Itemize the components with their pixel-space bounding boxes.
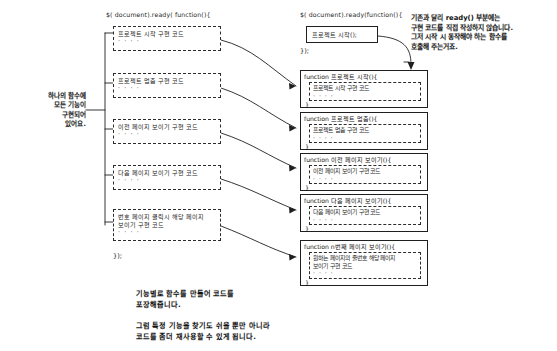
function-box-5: function n번째 페이지 보이기(){ 원하는 페이지의 줄번호 해당 …	[300, 240, 428, 286]
function-box-3-body: 이전 페이지 보이기 구현 코드 · · · ·	[309, 165, 421, 184]
ready-body-call-box: 프로젝트 시작();	[306, 26, 378, 43]
flow-arrow-2	[221, 88, 296, 128]
diagram-canvas: $( document).ready( function(){ 프로젝트 시작 …	[0, 0, 557, 351]
right-ready-header: $( document).ready(function(){	[300, 11, 402, 18]
left-ready-header: $( document).ready( function(){	[106, 11, 211, 18]
function-box-4-body: 다음 페이지 보이기 구현 코드 · · · ·	[309, 206, 421, 225]
function-box-3: function 이전 페이지 보이기(){ 이전 페이지 보이기 구현 코드 …	[300, 153, 428, 191]
call-to-definition-arrowhead	[408, 62, 415, 70]
left-code-block-2: 프로젝트 멈춤 구현 코드 · · · ·	[113, 73, 221, 98]
annotation-top-right-note: 기존과 달리 ready() 부분에는 구현 코드를 직접 작성하지 않습니다.…	[411, 14, 513, 52]
function-box-3-close: }	[304, 184, 424, 192]
flow-arrow-3	[221, 133, 296, 168]
function-box-4: function 다음 페이지 보이기(){ 다음 페이지 보이기 구현 코드 …	[300, 194, 428, 232]
left-code-block-5: 번호 페이지 클릭시 해당 페이지 보이기 구현 코드 · · · ·	[113, 209, 221, 241]
function-box-1-close: }	[304, 101, 424, 109]
function-box-2-body: 프로젝트 멈춤 구현 코드 · · · ·	[309, 124, 421, 143]
left-ready-footer: });	[113, 252, 122, 260]
flow-arrow-1	[221, 40, 296, 86]
left-code-block-3: 이전 페이지 보이기 구현 코드 · · · ·	[113, 119, 221, 144]
function-box-1: function 프로젝트 시작(){ 프로젝트 시작 구현 코드 · · · …	[300, 70, 428, 108]
left-code-block-1: 프로젝트 시작 구현 코드 · · · ·	[113, 26, 221, 51]
right-ready-footer: });	[300, 47, 309, 55]
left-code-block-3-dots: · · · ·	[118, 131, 216, 138]
function-box-4-body-dots: · · · ·	[313, 217, 417, 224]
left-code-block-5-line1: 번호 페이지 클릭시 해당 페이지	[118, 213, 216, 221]
function-box-3-signature: function 이전 페이지 보이기(){	[304, 156, 424, 164]
function-box-4-close: }	[304, 225, 424, 233]
function-box-5-body-dots: · · · ·	[313, 270, 417, 277]
ready-body-call-text: 프로젝트 시작();	[312, 30, 357, 39]
flow-arrow-5	[221, 226, 296, 257]
function-box-3-body-dots: · · · ·	[313, 176, 417, 183]
function-box-2: function 프로젝트 멈춤(){ 프로젝트 멈춤 구현 코드 · · · …	[300, 112, 428, 150]
left-code-block-2-dots: · · · ·	[118, 85, 216, 92]
left-code-block-1-dots: · · · ·	[118, 38, 216, 45]
flow-arrowheads	[289, 83, 296, 261]
left-code-block-5-dots: · · · ·	[118, 229, 216, 236]
annotation-left-note: 하나의 함수에 모든 기능이 구현되어 있어요.	[16, 92, 86, 130]
function-box-2-signature: function 프로젝트 멈춤(){	[304, 115, 424, 123]
function-box-1-signature: function 프로젝트 시작(){	[304, 73, 424, 81]
call-to-definition-arrow	[378, 36, 411, 64]
annotation-bottom-note-1: 기능별로 함수를 만들어 코드를 포장해줍니다.	[136, 288, 234, 310]
function-box-5-body-line1: 원하는 페이지의 줄번호 해당 페이지	[313, 255, 417, 263]
left-code-block-4: 다음 페이지 보이기 구현 코드 · · · ·	[113, 165, 221, 190]
flow-arrow-4	[221, 179, 296, 210]
annotation-bottom-note-2: 그럼 특정 기능을 찾기도 쉬울 뿐만 아니라 코드를 좀더 재사용할 수 있게…	[136, 320, 270, 342]
function-box-2-body-dots: · · · ·	[313, 135, 417, 142]
function-box-5-close: }	[304, 279, 424, 287]
function-box-5-signature: function n번째 페이지 보이기(){	[304, 243, 424, 251]
function-box-1-body-dots: · · · ·	[313, 93, 417, 100]
function-box-1-body: 프로젝트 시작 구현 코드 · · · ·	[309, 82, 421, 101]
connector-layer	[0, 0, 557, 351]
left-code-block-4-dots: · · · ·	[118, 177, 216, 184]
function-box-4-signature: function 다음 페이지 보이기(){	[304, 197, 424, 205]
function-box-2-close: }	[304, 143, 424, 151]
function-box-5-body: 원하는 페이지의 줄번호 해당 페이지 보이기 구현 코드 · · · ·	[309, 252, 421, 279]
